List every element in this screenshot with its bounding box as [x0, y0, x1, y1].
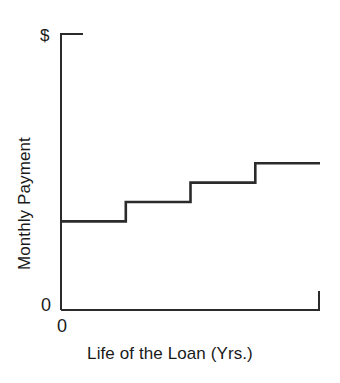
- step-series-monthly-payment: [61, 163, 320, 221]
- chart-figure: $ 0 0 Monthly Payment Life of the Loan (…: [0, 0, 340, 383]
- y-axis-top-tick-label: $: [40, 27, 49, 44]
- y-axis-title: Monthly Payment: [16, 50, 33, 270]
- chart-plot-area: [0, 0, 340, 383]
- y-axis-zero-tick-label: 0: [41, 296, 51, 314]
- x-axis-origin-label: 0: [57, 317, 67, 335]
- x-axis-title: Life of the Loan (Yrs.): [0, 345, 340, 362]
